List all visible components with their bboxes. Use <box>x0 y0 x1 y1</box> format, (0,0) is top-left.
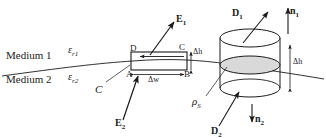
d2-flux-vector <box>219 92 239 126</box>
corner-label-d: D <box>130 44 137 53</box>
e2-label: E2 <box>115 118 125 131</box>
e2-symbol: E <box>115 117 122 128</box>
contour-c-label: C <box>95 84 102 95</box>
rho-s-label: ρS <box>192 96 201 110</box>
e2-subscript: 2 <box>122 123 126 131</box>
n2-label: n2 <box>255 114 264 127</box>
delta-w-text: Δw <box>148 75 159 84</box>
epsilon-r1-label: εr1 <box>68 45 78 58</box>
delta-h-right-text: Δh <box>293 57 302 66</box>
epsilon-r2-label: εr2 <box>68 72 78 85</box>
epsilon-r1-subscript: r1 <box>72 50 78 58</box>
corner-label-b: B <box>184 70 190 79</box>
e1-label: E1 <box>176 14 186 27</box>
n1-subscript: 1 <box>296 11 300 19</box>
diagram-canvas <box>0 0 326 138</box>
delta-h-left-text: Δh <box>193 47 202 56</box>
corner-label-c: C <box>179 43 185 52</box>
corner-label-a: A <box>126 70 133 79</box>
d1-label: D1 <box>232 8 243 21</box>
delta-h-right-label: Δh <box>293 58 302 66</box>
rho-s-leader <box>206 67 227 96</box>
n1-label: n1 <box>290 6 299 19</box>
e1-symbol: E <box>176 13 183 24</box>
rectangular-contour <box>131 52 187 70</box>
rho-s-subscript: S <box>197 102 201 110</box>
physics-diagram-boundary-conditions: Medium 1 Medium 2 εr1 εr2 C D C A B Δw Δ… <box>0 0 326 138</box>
delta-h-left-label: Δh <box>193 48 202 56</box>
medium-2-label: Medium 2 <box>6 74 52 85</box>
medium-1-label: Medium 1 <box>6 50 52 61</box>
e1-subscript: 1 <box>183 19 187 27</box>
d2-label: D2 <box>211 126 222 138</box>
gaussian-pillbox <box>220 29 280 97</box>
delta-w-label: Δw <box>148 76 159 84</box>
d1-subscript: 1 <box>239 13 243 21</box>
epsilon-r2-subscript: r2 <box>72 77 78 85</box>
e1-field-vector <box>150 22 174 55</box>
d2-subscript: 2 <box>218 131 222 138</box>
e2-field-vector <box>123 76 138 120</box>
n2-subscript: 2 <box>261 119 265 127</box>
